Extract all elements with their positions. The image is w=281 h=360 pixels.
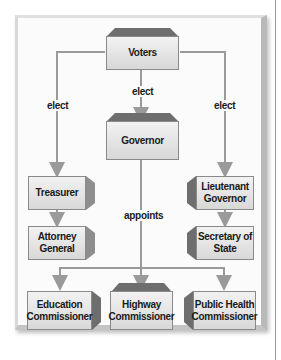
node-lieutenant-governor: Lieutenant Governor bbox=[196, 176, 254, 210]
node-secretary-of-state: Secretary of State bbox=[196, 226, 254, 260]
node-attorney-general: Attorney General bbox=[28, 226, 86, 260]
edge-label-elect-right: elect bbox=[213, 100, 236, 111]
node-education-commissioner: Education Commissioner bbox=[27, 291, 92, 330]
node-treasurer: Treasurer bbox=[28, 176, 86, 210]
node-voters: Voters bbox=[106, 36, 179, 70]
edge-label-elect-left: elect bbox=[46, 100, 69, 111]
edge-label-appoints: appoints bbox=[123, 210, 164, 221]
edge-label-elect-center: elect bbox=[131, 86, 154, 97]
node-public-health-commissioner: Public Health Commissioner bbox=[193, 291, 256, 330]
node-highway-commissioner: Highway Commissioner bbox=[110, 291, 173, 330]
node-governor: Governor bbox=[106, 121, 179, 160]
